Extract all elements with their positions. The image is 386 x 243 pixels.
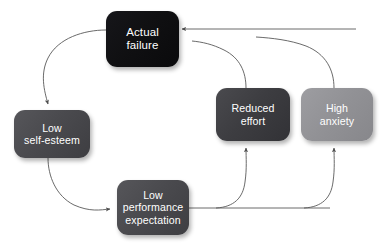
node-low-performance-expectation[interactable]: Low performance expectation	[117, 180, 189, 235]
edge-high-anxiety-riser	[256, 37, 334, 88]
edge-failure-to-self-esteem	[43, 30, 106, 104]
diagram-canvas: Actual failure Low self-esteem Low perfo…	[0, 0, 386, 243]
node-high-anxiety-label: High anxiety	[317, 102, 357, 127]
node-high-anxiety[interactable]: High anxiety	[301, 88, 373, 141]
node-actual-failure-label: Actual failure	[123, 26, 162, 53]
edge-self-esteem-to-performance	[48, 158, 110, 210]
node-reduced-effort-label: Reduced effort	[228, 102, 277, 127]
node-low-self-esteem[interactable]: Low self-esteem	[14, 110, 90, 158]
edge-performance-to-high-anxiety	[304, 148, 334, 208]
node-low-self-esteem-label: Low self-esteem	[21, 122, 83, 147]
node-low-performance-expectation-label: Low performance expectation	[120, 189, 187, 226]
edge-performance-to-reduced-effort	[216, 148, 246, 208]
edge-reduced-effort-riser	[192, 41, 246, 88]
node-actual-failure[interactable]: Actual failure	[106, 11, 179, 67]
node-reduced-effort[interactable]: Reduced effort	[216, 88, 290, 141]
